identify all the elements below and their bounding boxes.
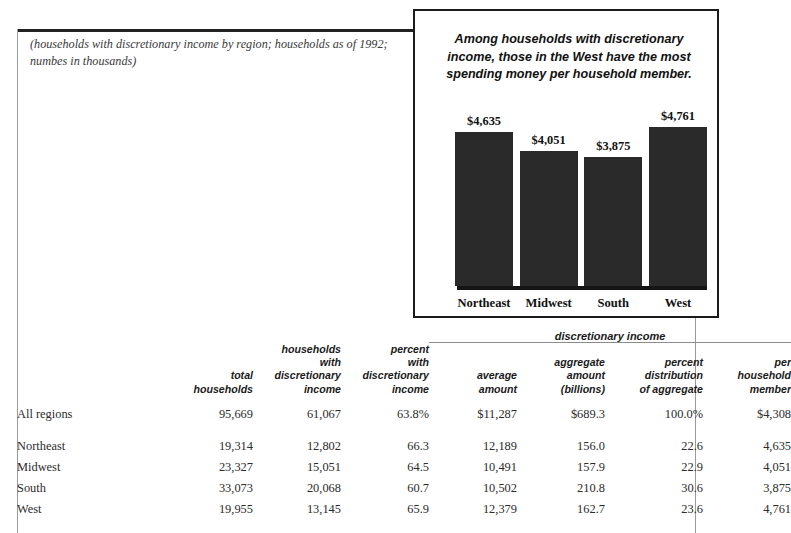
cell-per_member: 4,761: [703, 496, 791, 517]
cell-pct_disc: 65.9: [341, 496, 429, 517]
cell-hh_disc: 13,145: [253, 496, 341, 517]
chart-title: Among households with discretionary inco…: [433, 31, 705, 84]
cell-agg_amount: 210.8: [517, 475, 605, 496]
cell-agg_amount: 162.7: [517, 496, 605, 517]
table-group-header: discretionary income: [429, 330, 791, 342]
cell-avg_amount: 10,502: [429, 475, 517, 496]
cell-agg_amount: $689.3: [517, 396, 605, 422]
cell-hh_disc: 20,068: [253, 475, 341, 496]
x-axis-tick-label: Northeast: [455, 296, 513, 311]
bar-value-label: $3,875: [596, 139, 630, 154]
cell-per_member: 4,051: [703, 454, 791, 475]
chart-x-axis-labels: NortheastMidwestSouthWest: [455, 296, 707, 311]
x-axis-tick-label: West: [649, 296, 707, 311]
column-header-region: [17, 343, 165, 396]
bar-series: $4,635$4,051$3,875$4,761: [455, 106, 707, 286]
cell-agg_amount: 156.0: [517, 433, 605, 454]
cell-pct_dist: 23.6: [605, 496, 703, 517]
cell-total: 19,955: [165, 496, 253, 517]
row-label: Northeast: [17, 433, 165, 454]
page-top-rule: [17, 29, 413, 32]
cell-avg_amount: 10,491: [429, 454, 517, 475]
cell-pct_disc: 66.3: [341, 433, 429, 454]
data-table-wrap: discretionary income total householdshou…: [17, 330, 695, 517]
cell-per_member: $4,308: [703, 396, 791, 422]
page-caption: (households with discretionary income by…: [30, 36, 390, 70]
chart-plot-area: $4,635$4,051$3,875$4,761: [455, 106, 707, 286]
table-row: Northeast19,31412,80266.312,189156.022.6…: [17, 433, 791, 454]
bar-column: $4,635: [455, 106, 513, 286]
x-axis-tick-label: Midwest: [520, 296, 578, 311]
cell-agg_amount: 157.9: [517, 454, 605, 475]
cell-total: 95,669: [165, 396, 253, 422]
cell-total: 33,073: [165, 475, 253, 496]
table-row: Midwest23,32715,05164.510,491157.922.94,…: [17, 454, 791, 475]
row-label: South: [17, 475, 165, 496]
cell-avg_amount: 12,189: [429, 433, 517, 454]
bar-rect: [584, 157, 642, 286]
cell-hh_disc: 12,802: [253, 433, 341, 454]
row-label: West: [17, 496, 165, 517]
table-row-spacer: [17, 422, 791, 433]
table-head: discretionary income total householdshou…: [17, 330, 791, 396]
cell-total: 23,327: [165, 454, 253, 475]
table-row: All regions95,66961,06763.8%$11,287$689.…: [17, 396, 791, 422]
row-label: All regions: [17, 396, 165, 422]
cell-total: 19,314: [165, 433, 253, 454]
bar-rect: [455, 132, 513, 287]
bar-value-label: $4,635: [467, 114, 501, 129]
bar-column: $4,761: [649, 106, 707, 286]
cell-avg_amount: 12,379: [429, 496, 517, 517]
cell-avg_amount: $11,287: [429, 396, 517, 422]
cell-per_member: 3,875: [703, 475, 791, 496]
chart-panel: Among households with discretionary inco…: [413, 9, 719, 318]
table-group-header-row: discretionary income: [17, 330, 791, 342]
cell-per_member: 4,635: [703, 433, 791, 454]
table-column-header-row: total householdshouseholds with discreti…: [17, 343, 791, 396]
column-header-agg_amount: aggregate amount (billions): [517, 343, 605, 396]
column-header-pct_dist: percent distribution of aggregate: [605, 343, 703, 396]
cell-pct_dist: 30.6: [605, 475, 703, 496]
cell-hh_disc: 15,051: [253, 454, 341, 475]
cell-pct_dist: 100.0%: [605, 396, 703, 422]
cell-pct_dist: 22.9: [605, 454, 703, 475]
row-label: Midwest: [17, 454, 165, 475]
bar-value-label: $4,761: [661, 109, 695, 124]
table-row: West19,95513,14565.912,379162.723.64,761: [17, 496, 791, 517]
bar-rect: [649, 127, 707, 286]
column-header-hh_disc: households with discretionary income: [253, 343, 341, 396]
discretionary-income-table: discretionary income total householdshou…: [17, 330, 791, 517]
chart-baseline-axis: [457, 286, 707, 290]
cell-pct_dist: 22.6: [605, 433, 703, 454]
table-body: All regions95,66961,06763.8%$11,287$689.…: [17, 396, 791, 517]
column-header-pct_disc: percent with discretionary income: [341, 343, 429, 396]
x-axis-tick-label: South: [584, 296, 642, 311]
bar-column: $3,875: [584, 106, 642, 286]
cell-pct_disc: 64.5: [341, 454, 429, 475]
bar-value-label: $4,051: [532, 133, 566, 148]
column-header-avg_amount: average amount: [429, 343, 517, 396]
bar-column: $4,051: [520, 106, 578, 286]
column-header-total: total households: [165, 343, 253, 396]
column-header-per_member: per household member: [703, 343, 791, 396]
table-row: South33,07320,06860.710,502210.830.63,87…: [17, 475, 791, 496]
cell-pct_disc: 63.8%: [341, 396, 429, 422]
bar-rect: [520, 151, 578, 286]
cell-hh_disc: 61,067: [253, 396, 341, 422]
cell-pct_disc: 60.7: [341, 475, 429, 496]
table-row-spacer-cell: [17, 422, 791, 433]
